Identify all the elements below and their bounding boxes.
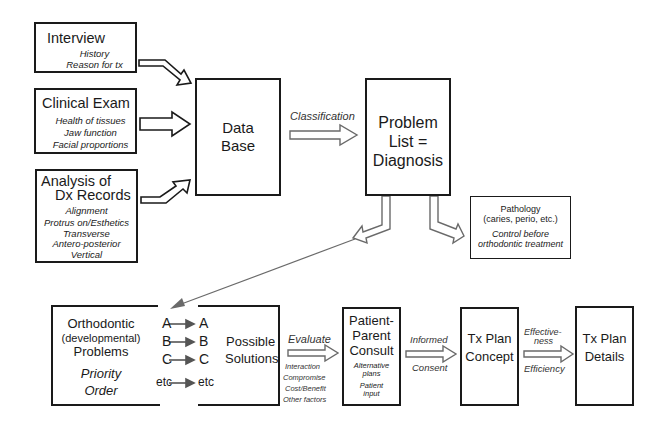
arrow-problem-to-solutions	[353, 196, 390, 243]
concept-label-2: Concept	[462, 349, 517, 364]
pathology-examples: (caries, perio, etc.)	[471, 214, 570, 224]
pathology-note-2: orthodontic treatment	[471, 239, 570, 249]
solution-item: B	[199, 333, 208, 349]
informed-label: Informed	[410, 334, 448, 345]
evaluate-factor: Compromise	[283, 373, 326, 382]
consult-note: plans	[344, 370, 399, 378]
details-label-2: Details	[577, 349, 632, 364]
arrow-effectiveness	[524, 346, 573, 362]
evaluate-label: Evaluate	[288, 333, 331, 345]
problems-block: Orthodontic (developmental) Problems Pri…	[52, 306, 280, 406]
arrow-clinical-to-database	[140, 112, 190, 136]
problem-item: etc	[156, 375, 172, 389]
consent-label: Consent	[412, 362, 447, 373]
problems-label-3: Problems	[52, 344, 150, 359]
database-label-2: Base	[197, 136, 279, 155]
solution-item: etc	[198, 375, 214, 389]
evaluate-factor: Other factors	[283, 395, 326, 404]
analysis-item: Protrus on/Esthetics	[37, 217, 136, 228]
connector-line	[176, 239, 355, 306]
arrow-interview-to-database	[139, 60, 191, 85]
consult-label-2: Parent	[344, 328, 399, 343]
pathology-label: Pathology	[471, 204, 570, 214]
consult-label-3: Consult	[344, 343, 399, 358]
problem-list-label-2: List =	[367, 132, 449, 151]
priority-label-1: Priority	[52, 366, 150, 381]
clinical-exam-box: Clinical Exam Health of tissues Jaw func…	[34, 88, 137, 154]
interview-item: Reason for tx	[36, 59, 135, 70]
problem-item: B	[162, 333, 171, 349]
analysis-item: Alignment	[37, 205, 136, 216]
clinical-exam-item: Jaw function	[36, 127, 135, 138]
efficiency-label: Efficiency	[524, 363, 565, 374]
solution-item: A	[199, 315, 208, 331]
evaluate-factor: Cost/Benefit	[285, 384, 326, 393]
pathology-note-1: Control before	[471, 229, 570, 239]
consult-note: input	[344, 390, 399, 398]
pathology-box: Pathology (caries, perio, etc.) Control …	[470, 196, 571, 259]
arrow-problem-to-pathology	[430, 196, 464, 243]
interview-item: History	[36, 48, 135, 59]
problem-item: C	[162, 351, 172, 367]
problems-label-2: (developmental)	[52, 332, 150, 344]
consult-label-1: Patient-	[344, 313, 399, 328]
problems-label-1: Orthodontic	[52, 316, 150, 331]
tx-plan-concept-box: Tx Plan Concept	[460, 307, 519, 406]
arrow-informed-consent	[406, 346, 456, 362]
database-label-1: Data	[197, 118, 279, 137]
problem-item: A	[162, 315, 171, 331]
problem-list-box: Problem List = Diagnosis	[365, 78, 451, 196]
clinical-exam-item: Health of tissues	[36, 115, 135, 126]
interview-box: Interview History Reason for tx	[34, 22, 137, 73]
analysis-title-2: Dx Records	[55, 187, 131, 203]
details-label-1: Tx Plan	[577, 331, 632, 346]
clinical-exam-item: Facial proportions	[36, 139, 135, 150]
clinical-exam-title: Clinical Exam	[42, 95, 130, 111]
consult-box: Patient- Parent Consult Alternative plan…	[342, 307, 401, 406]
arrow-analysis-to-database	[141, 180, 190, 203]
solution-item: C	[199, 351, 209, 367]
solutions-label-2: Solutions	[225, 351, 278, 366]
effectiveness-label-2: ness	[534, 337, 553, 346]
problem-list-label-1: Problem	[367, 113, 449, 132]
solutions-label-1: Possible	[226, 334, 275, 349]
concept-label-1: Tx Plan	[462, 331, 517, 346]
problem-list-label-3: Diagnosis	[367, 151, 449, 170]
tx-plan-details-box: Tx Plan Details	[575, 306, 634, 406]
arrow-classification	[290, 125, 357, 145]
evaluate-factor: Interaction	[285, 362, 320, 371]
interview-title: Interview	[47, 30, 105, 46]
classification-label: Classification	[290, 110, 355, 122]
priority-label-2: Order	[52, 383, 150, 398]
database-box: Data Base	[195, 78, 281, 196]
analysis-item: Vertical	[37, 249, 136, 260]
analysis-box: Analysis of Dx Records Alignment Protrus…	[35, 169, 138, 263]
analysis-item: Antero-posterior	[37, 238, 136, 249]
arrow-evaluate	[288, 345, 338, 361]
